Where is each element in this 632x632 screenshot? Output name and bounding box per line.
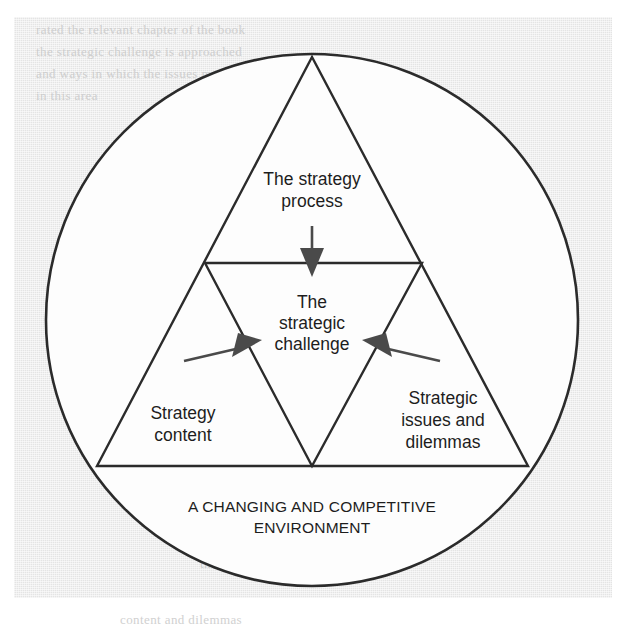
left-vertex-label-line2: content: [154, 425, 212, 445]
environment-label-line2: ENVIRONMENT: [254, 519, 371, 536]
right-vertex-label-line2: issues and: [401, 410, 485, 430]
right-vertex-label-line1: Strategic: [408, 388, 477, 408]
top-vertex-label-line1: The strategy: [263, 169, 361, 189]
strategic-challenge-diagram: The strategy process The strategic chall…: [0, 0, 632, 632]
page-root: rated the relevant chapter of the bookth…: [0, 0, 632, 632]
centre-label-line3: challenge: [275, 334, 350, 354]
environment-label-line1: A CHANGING AND COMPETITIVE: [188, 498, 436, 515]
right-vertex-label-line3: dilemmas: [406, 432, 481, 452]
centre-label-line2: strategic: [279, 313, 345, 333]
top-vertex-label-line2: process: [281, 191, 343, 211]
left-vertex-label-line1: Strategy: [150, 403, 215, 423]
centre-label-line1: The: [297, 292, 327, 312]
